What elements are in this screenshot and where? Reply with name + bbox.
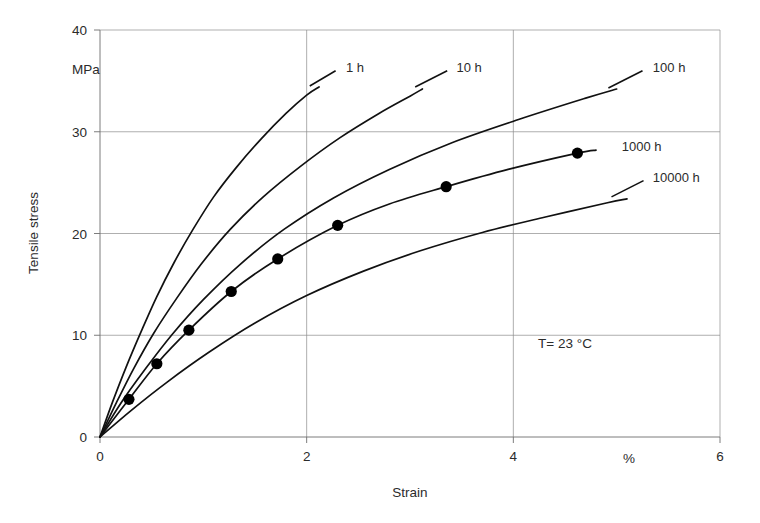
- isochronous-stress-strain-chart: 0246 010203040 1 h10 h100 h1000 h10000 h…: [0, 0, 760, 523]
- x-tick-label: 2: [303, 449, 311, 464]
- x-axis-title: Strain: [392, 485, 427, 500]
- x-tick-label: 6: [716, 449, 724, 464]
- y-tick-label: 10: [72, 328, 87, 343]
- y-axis-title: Tensile stress: [26, 192, 41, 274]
- curve-label-10-h: 10 h: [457, 60, 482, 75]
- y-tick-label: 20: [72, 227, 87, 242]
- annotation-x-unit: %: [623, 451, 635, 466]
- data-point-marker: [183, 325, 194, 336]
- data-point-marker: [272, 253, 283, 264]
- data-point-marker: [572, 148, 583, 159]
- curve-label-1-h: 1 h: [346, 60, 364, 75]
- chart-background: [0, 0, 760, 523]
- curve-label-100-h: 100 h: [653, 60, 686, 75]
- data-point-marker: [226, 286, 237, 297]
- data-point-marker: [441, 181, 452, 192]
- y-tick-label: 30: [72, 125, 87, 140]
- x-tick-label: 4: [510, 449, 518, 464]
- data-point-marker: [123, 394, 134, 405]
- data-point-marker: [332, 220, 343, 231]
- curve-label-1000-h: 1000 h: [622, 139, 662, 154]
- annotation-temperature: T= 23 °C: [538, 336, 592, 351]
- curve-label-10000-h: 10000 h: [653, 170, 700, 185]
- chart-figure: 0246 010203040 1 h10 h100 h1000 h10000 h…: [0, 0, 760, 523]
- y-tick-label: 40: [72, 23, 87, 38]
- data-point-marker: [151, 358, 162, 369]
- x-tick-label: 0: [96, 449, 104, 464]
- annotation-y-unit: MPa: [72, 62, 100, 77]
- y-tick-label: 0: [79, 430, 87, 445]
